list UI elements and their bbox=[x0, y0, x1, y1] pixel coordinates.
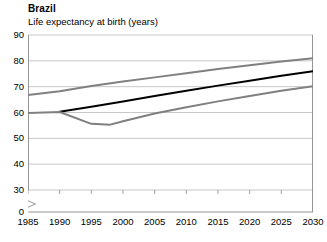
x-axis-label-1995: 1995 bbox=[74, 216, 108, 227]
page-title: Brazil bbox=[28, 3, 56, 14]
chart-svg bbox=[28, 33, 313, 215]
x-axis-label-2010: 2010 bbox=[169, 216, 203, 227]
y-axis-label-60: 60 bbox=[2, 107, 24, 118]
x-axis-label-2020: 2020 bbox=[233, 216, 267, 227]
x-axis-label-2025: 2025 bbox=[264, 216, 298, 227]
chart-subtitle: Life expectancy at birth (years) bbox=[28, 16, 158, 27]
axis-break-marker bbox=[28, 190, 36, 212]
plot-area bbox=[28, 33, 313, 213]
x-axis-label-2005: 2005 bbox=[138, 216, 172, 227]
x-axis-label-2030: 2030 bbox=[296, 216, 327, 227]
y-axis-label-50: 50 bbox=[2, 132, 24, 143]
series-line-lower-series bbox=[28, 86, 313, 124]
y-axis-label-90: 90 bbox=[2, 29, 24, 40]
x-axis-label-2000: 2000 bbox=[106, 216, 140, 227]
x-axis-label-2015: 2015 bbox=[201, 216, 235, 227]
y-axis-label-70: 70 bbox=[2, 81, 24, 92]
y-axis-label-30: 30 bbox=[2, 184, 24, 195]
y-axis-label-40: 40 bbox=[2, 158, 24, 169]
y-axis-label-80: 80 bbox=[2, 55, 24, 66]
x-axis-label-1985: 1985 bbox=[11, 216, 45, 227]
chart-page: Brazil Life expectancy at birth (years) … bbox=[0, 0, 327, 242]
x-axis-label-1990: 1990 bbox=[43, 216, 77, 227]
